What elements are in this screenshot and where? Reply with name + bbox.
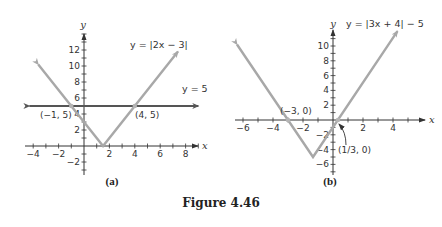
panel-a-label: (a) <box>106 175 119 188</box>
panel-b-y-axis-label: y <box>329 18 336 29</box>
panel-b-annotation-point <box>286 118 291 123</box>
panel-a-x-tick-label: −4 <box>27 149 41 159</box>
panel-a-annotation-label: (−1, 5) <box>40 110 72 120</box>
panel-a-y-axis-label: y <box>79 19 86 30</box>
panel-a-x-tick-label: 4 <box>132 149 138 159</box>
panel-b-x-tick-label: 4 <box>390 123 396 133</box>
panel-b-y-tick-label: −6 <box>316 159 330 169</box>
panel-b-x-tick-label: −4 <box>266 123 280 133</box>
panel-a-annotation-point <box>133 104 138 109</box>
figure-caption: Figure 4.46 <box>0 196 442 210</box>
panel-b-x-tick-label: −2 <box>296 123 309 133</box>
panel-b-x-axis-label: x <box>429 114 435 125</box>
panel-b-label: (b) <box>323 175 337 188</box>
panel-a-y-tick-label: 2 <box>74 125 80 135</box>
panel-a-series-line-0 <box>38 52 178 146</box>
panel-a-annotation-label: (4, 5) <box>135 110 159 120</box>
panel-a-equation-label: y = |2x − 3| <box>130 39 188 50</box>
panel-b-x-tick-label: −6 <box>236 123 250 133</box>
panel-a-annotation-point <box>69 104 74 109</box>
panel-b-y-tick-label: 4 <box>323 85 329 95</box>
panel-b-annotation-point <box>336 118 341 123</box>
panel-a-y-tick-label: 10 <box>69 61 81 71</box>
panel-a-x-tick-label: 2 <box>107 149 113 159</box>
panel-b-y-tick-label: 10 <box>318 41 330 51</box>
panel-b-annotation-arrow <box>339 124 346 145</box>
panel-a-line-label: y = 5 <box>182 83 208 94</box>
panel-a-y-tick-label: 8 <box>74 77 80 87</box>
panel-b-equation-label: y = |3x + 4| − 5 <box>346 18 424 29</box>
panel-b-x-tick-label: 2 <box>360 123 366 133</box>
panel-a-x-axis-label: x <box>202 140 208 151</box>
panel-a-x-tick-label: −2 <box>52 149 65 159</box>
panel-b-annotation-label: (−3, 0) <box>280 106 312 116</box>
panel-a-x-tick-label: 6 <box>157 149 163 159</box>
figure: −4−22468−224681012xy(−1, 5)(4, 5)y = |2x… <box>0 0 442 227</box>
panel-a-y-tick-label: −2 <box>67 157 80 167</box>
panel-b-y-tick-label: 6 <box>323 71 329 81</box>
panel-a-y-tick-label: 6 <box>74 93 80 103</box>
panel-b-y-tick-label: 8 <box>323 56 329 66</box>
panel-a-x-tick-label: 8 <box>183 149 189 159</box>
panel-b-y-tick-label: 2 <box>323 100 329 110</box>
panel-b-annotation-label: (1/3, 0) <box>338 145 371 155</box>
panel-a-y-tick-label: 12 <box>69 45 80 55</box>
